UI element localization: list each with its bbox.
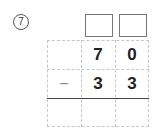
problem-number-badge: 7 <box>13 14 29 30</box>
subtraction-grid: 7 0 − 3 3 <box>47 40 149 127</box>
minuend-tens-digit: 7 <box>81 40 115 69</box>
answer-box-ones[interactable] <box>119 14 147 37</box>
result-ones-cell[interactable] <box>115 98 149 127</box>
result-op-cell <box>47 98 81 127</box>
result-tens-cell[interactable] <box>81 98 115 127</box>
subtrahend-ones-digit: 3 <box>115 69 149 98</box>
answer-box-tens[interactable] <box>85 14 113 37</box>
minuend-op-cell <box>47 40 81 69</box>
minuend-ones-digit: 0 <box>115 40 149 69</box>
subtrahend-tens-digit: 3 <box>81 69 115 98</box>
minus-sign: − <box>47 69 81 98</box>
